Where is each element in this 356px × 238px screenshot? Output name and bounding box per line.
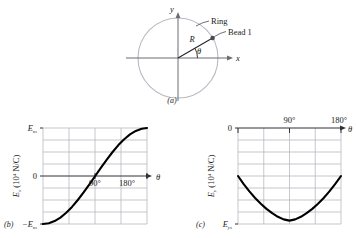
axis-y-label: y [169,4,174,14]
panel-a-caption: (a) [167,96,177,105]
panel-c-xtick-180: 180° [331,115,347,125]
radius-label: R [188,34,195,44]
panel-b-yaxis-title: Ex (104 N/C) [11,155,22,199]
y-axis-arrowhead [176,12,181,18]
panel-b-yzero-label: 0 [33,171,37,181]
bead-label: Bead 1 [228,27,252,37]
panel-c-caption: (c) [196,220,205,229]
axis-x-label: x [235,53,240,63]
panel-b-caption: (b) [4,220,14,229]
panel-b: Exs 0 −Exs 90° 180° θ Ex (104 N/C) (b) [4,123,160,230]
bead-leader-line [215,32,227,37]
panel-c-xaxis-label: θ [348,124,352,134]
panel-c-ytop-label: 0 [228,123,232,133]
panel-b-ybot-label: −Exs [22,219,37,230]
ring-label: Ring [211,16,228,26]
panel-b-xaxis-label: θ [156,172,160,182]
physics-figure: y x Ring Bead 1 R θ (a) [0,0,356,238]
panel-c-gridlines [238,128,341,224]
panel-c-xtick-90: 90° [284,115,296,125]
panel-b-ytop-label: Exs [27,123,37,134]
figure-svg: y x Ring Bead 1 R θ (a) [0,0,356,238]
bead-dot [210,36,215,41]
panel-a: y x Ring Bead 1 R θ (a) [126,4,252,105]
panel-c-ybot-label: Eys [222,219,232,230]
panel-b-xtick-180: 180° [119,178,135,188]
angle-label: θ [197,46,201,56]
x-axis-arrowhead [227,56,233,61]
panel-c: 0 Eys 90° 180° θ Ey (104 N/C) (c) [196,115,352,230]
panel-b-xtick-90: 90° [89,178,101,188]
panel-c-yaxis-title: Ey (104 N/C) [206,155,217,199]
